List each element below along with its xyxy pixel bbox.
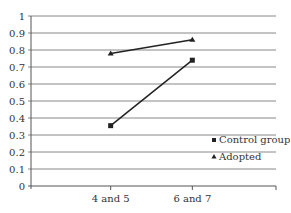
y-tick-label: 0.8 <box>9 45 25 56</box>
x-tick-label: 6 and 7 <box>173 193 211 204</box>
data-point <box>189 37 195 42</box>
y-tick-label: 0.1 <box>9 164 25 175</box>
legend: Control groupAdopted <box>212 134 291 162</box>
y-tick-label: 0.7 <box>9 62 25 73</box>
y-tick-label: 1 <box>19 11 25 22</box>
series-line-adopted <box>111 40 193 54</box>
y-tick-label: 0.4 <box>9 113 25 124</box>
legend-marker-square <box>212 138 216 142</box>
data-point <box>190 58 195 63</box>
x-tick-label: 4 and 5 <box>92 193 130 204</box>
y-tick-label: 0.9 <box>9 28 25 39</box>
y-tick-label: 0.5 <box>9 96 25 107</box>
line-chart: 00.10.20.30.40.50.60.70.80.91 4 and 56 a… <box>0 0 290 213</box>
x-axis: 4 and 56 and 7 <box>92 186 276 204</box>
legend-marker-triangle <box>212 154 217 159</box>
y-tick-label: 0.6 <box>9 79 25 90</box>
legend-label: Adopted <box>218 151 262 162</box>
y-axis-ticks: 00.10.20.30.40.50.60.70.80.91 <box>9 11 25 192</box>
y-tick-label: 0.2 <box>9 147 25 158</box>
gridlines <box>28 16 276 189</box>
series-line-control-group <box>111 60 193 125</box>
series-lines <box>108 37 196 128</box>
y-tick-label: 0 <box>19 181 25 192</box>
legend-label: Control group <box>219 134 290 145</box>
data-point <box>108 123 113 128</box>
y-tick-label: 0.3 <box>9 130 25 141</box>
